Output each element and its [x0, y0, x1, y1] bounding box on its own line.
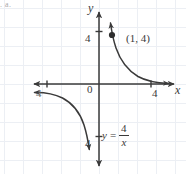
graph-figure: y x 0 4 4 4 4 (1, 4) y = 4 x . a. [0, 0, 186, 174]
fraction-numerator: 4 [119, 123, 129, 135]
x-tick-label-negative-4: 4 [36, 88, 42, 99]
point-annotation-label: (1, 4) [126, 33, 150, 44]
fraction-denominator: x [119, 136, 128, 148]
data-point-1-4 [109, 32, 115, 38]
origin-label: 0 [87, 84, 93, 95]
equation-fraction: 4 x [119, 123, 129, 148]
equation-left-side: y [102, 130, 107, 141]
coordinate-plane-svg [0, 0, 186, 174]
equation-label: y = 4 x [102, 123, 129, 148]
x-tick-label-positive-4: 4 [152, 88, 158, 99]
curve-branch-quadrant-3 [35, 92, 90, 149]
equation-equals-sign: = [110, 130, 116, 141]
y-tick-label-negative-4: 4 [85, 138, 91, 149]
problem-number-label: . a. [0, 1, 12, 9]
y-tick-label-positive-4: 4 [85, 33, 91, 44]
y-axis-label: y [88, 2, 93, 14]
x-axis-label: x [175, 84, 180, 96]
